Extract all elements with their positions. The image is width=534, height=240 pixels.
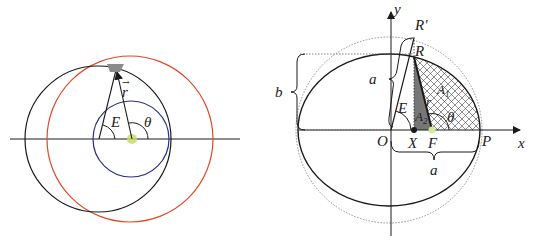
x-axis-label: x bbox=[517, 135, 525, 151]
satellite-icon bbox=[107, 64, 124, 72]
focus-point bbox=[429, 127, 436, 134]
theta-label: θ bbox=[144, 114, 152, 130]
R-prime-label: R' bbox=[414, 17, 428, 33]
F-label: F bbox=[427, 135, 438, 151]
figure-canvas: r → E θ y x bbox=[0, 0, 534, 240]
r-arrow-icon: → bbox=[122, 77, 130, 87]
X-label: X bbox=[407, 135, 418, 151]
E-label: E bbox=[397, 100, 407, 116]
y-axis-label: y bbox=[392, 1, 401, 17]
left-diagram: r → E θ bbox=[10, 56, 240, 222]
a-horizontal-label: a bbox=[430, 162, 438, 178]
a-vertical-label: a bbox=[369, 71, 377, 87]
theta-label: θ bbox=[447, 109, 455, 125]
X-point bbox=[411, 127, 417, 133]
E-line bbox=[391, 38, 414, 130]
R-label: R bbox=[414, 43, 424, 59]
E-label: E bbox=[110, 114, 120, 130]
b-label: b bbox=[275, 84, 283, 100]
O-label: O bbox=[377, 133, 388, 149]
P-label: P bbox=[481, 133, 491, 149]
b-brace bbox=[291, 54, 305, 130]
right-diagram: y x R' R a b E A1 A2 r θ O X F P a bbox=[275, 1, 525, 236]
